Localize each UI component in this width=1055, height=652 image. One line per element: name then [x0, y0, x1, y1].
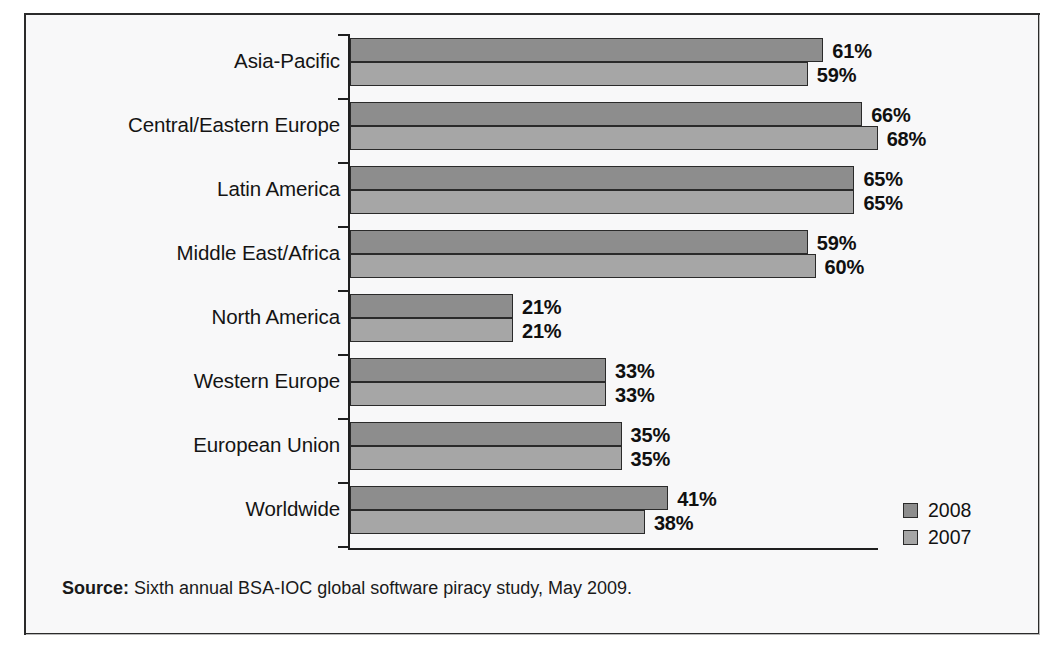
category-label: Western Europe: [0, 369, 340, 393]
axis-tick: [338, 482, 349, 484]
legend-item-2008: 2008: [903, 497, 971, 524]
legend-label-2008: 2008: [928, 499, 971, 522]
bar-2007: [350, 510, 645, 534]
plot-area: Asia-Pacific61%59%Central/Eastern Europe…: [0, 0, 1055, 652]
source-prefix: Source:: [62, 578, 129, 598]
category-label: Middle East/Africa: [0, 241, 340, 265]
bar-value-label: 68%: [887, 128, 926, 151]
category-label: North America: [0, 305, 340, 329]
axis-tick: [338, 290, 349, 292]
axis-tick: [338, 34, 349, 36]
value-axis-baseline: [348, 548, 878, 550]
bar-value-label: 33%: [615, 360, 654, 383]
bar-value-label: 65%: [863, 192, 902, 215]
category-label: Asia-Pacific: [0, 49, 340, 73]
source-note: Source: Sixth annual BSA-IOC global soft…: [62, 578, 632, 599]
bar-2008: [350, 166, 854, 190]
bar-2007: [350, 126, 878, 150]
bar-value-label: 21%: [522, 320, 561, 343]
bar-value-label: 35%: [631, 424, 670, 447]
legend-item-2007: 2007: [903, 524, 971, 551]
bar-value-label: 65%: [863, 168, 902, 191]
bar-2008: [350, 294, 513, 318]
axis-tick: [338, 418, 349, 420]
category-label: European Union: [0, 433, 340, 457]
category-label: Worldwide: [0, 497, 340, 521]
bar-2007: [350, 382, 606, 406]
source-text: Sixth annual BSA-IOC global software pir…: [134, 578, 632, 598]
axis-tick: [338, 162, 349, 164]
chart-screenshot: Asia-Pacific61%59%Central/Eastern Europe…: [0, 0, 1055, 652]
bar-value-label: 38%: [654, 512, 693, 535]
bar-value-label: 66%: [871, 104, 910, 127]
bar-value-label: 21%: [522, 296, 561, 319]
legend-label-2007: 2007: [928, 526, 971, 549]
bar-2008: [350, 486, 668, 510]
bar-2008: [350, 358, 606, 382]
bar-2008: [350, 230, 808, 254]
category-label: Central/Eastern Europe: [0, 113, 340, 137]
bar-value-label: 60%: [825, 256, 864, 279]
bar-2007: [350, 254, 816, 278]
axis-tick: [338, 354, 349, 356]
chart-legend: 2008 2007: [903, 497, 971, 551]
bar-value-label: 35%: [631, 448, 670, 471]
axis-tick: [338, 226, 349, 228]
bar-2008: [350, 102, 862, 126]
bar-value-label: 59%: [817, 232, 856, 255]
bar-value-label: 33%: [615, 384, 654, 407]
bar-2007: [350, 62, 808, 86]
bar-2008: [350, 422, 622, 446]
bar-2008: [350, 38, 823, 62]
bar-value-label: 59%: [817, 64, 856, 87]
bar-2007: [350, 318, 513, 342]
bar-value-label: 61%: [832, 40, 871, 63]
axis-tick: [338, 546, 349, 548]
legend-swatch-2008-icon: [903, 503, 918, 518]
legend-swatch-2007-icon: [903, 530, 918, 545]
axis-tick: [338, 98, 349, 100]
bar-value-label: 41%: [677, 488, 716, 511]
bar-2007: [350, 190, 854, 214]
category-label: Latin America: [0, 177, 340, 201]
bar-2007: [350, 446, 622, 470]
